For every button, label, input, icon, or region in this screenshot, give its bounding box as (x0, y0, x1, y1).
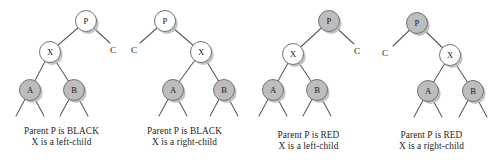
caption-line-2: X is a right-child (123, 137, 246, 148)
node-b: B (64, 80, 85, 101)
node-b: B (214, 80, 235, 101)
red-black-tree-cases-figure: PXABCParent P is BLACKX is a left-childP… (0, 0, 492, 166)
tree-nodes: PXAB (407, 13, 484, 102)
label-c: C (354, 46, 360, 56)
node-label: A (425, 86, 432, 96)
node-x: X (191, 42, 212, 63)
node-label: P (84, 16, 89, 26)
node-b: B (307, 80, 328, 101)
node-p: P (407, 13, 428, 34)
external-labels: C (354, 46, 360, 56)
caption-line-1: Parent P is RED (247, 130, 370, 141)
node-a: A (418, 81, 439, 102)
node-label: X (290, 49, 297, 59)
tree-panel: PXABCParent P is BLACKX is a left-child (0, 0, 123, 166)
node-x: X (283, 44, 304, 65)
node-label: A (27, 85, 34, 95)
node-label: X (198, 47, 205, 57)
node-x: X (40, 42, 61, 63)
node-label: X (447, 50, 454, 60)
node-x: X (440, 45, 461, 66)
node-b: B (463, 81, 484, 102)
node-label: P (327, 16, 332, 26)
node-label: B (71, 85, 77, 95)
node-label: B (470, 86, 476, 96)
panel-caption: Parent P is BLACKX is a left-child (0, 126, 123, 148)
caption-line-1: Parent P is BLACK (123, 126, 246, 137)
node-a: A (163, 80, 184, 101)
node-label: P (163, 16, 168, 26)
external-labels: C (110, 45, 116, 55)
node-label: B (314, 85, 320, 95)
caption-line-1: Parent P is BLACK (0, 126, 123, 137)
node-a: A (263, 80, 284, 101)
node-label: X (47, 47, 54, 57)
label-c: C (382, 48, 388, 58)
node-label: P (415, 18, 420, 28)
tree-nodes: PXAB (155, 11, 235, 101)
node-p: P (319, 11, 340, 32)
external-labels: C (131, 45, 137, 55)
tree-panel: PXABCParent P is BLACKX is a right-child (123, 0, 246, 166)
caption-line-1: Parent P is RED (370, 130, 492, 141)
node-label: A (170, 85, 177, 95)
panel-caption: Parent P is BLACKX is a right-child (123, 126, 246, 148)
caption-line-2: X is a left-child (0, 137, 123, 148)
panel-caption: Parent P is REDX is a left-child (247, 130, 370, 152)
tree-panel: PXABCParent P is REDX is a right-child (370, 0, 492, 166)
node-p: P (155, 11, 176, 32)
panel-caption: Parent P is REDX is a right-child (370, 130, 492, 152)
node-label: A (270, 85, 277, 95)
node-label: B (221, 85, 227, 95)
node-a: A (20, 80, 41, 101)
label-c: C (131, 45, 137, 55)
label-c: C (110, 45, 116, 55)
caption-line-2: X is a right-child (370, 141, 492, 152)
node-p: P (76, 11, 97, 32)
caption-line-2: X is a left-child (247, 141, 370, 152)
tree-panel: PXABCParent P is REDX is a left-child (247, 0, 370, 166)
external-labels: C (382, 48, 388, 58)
